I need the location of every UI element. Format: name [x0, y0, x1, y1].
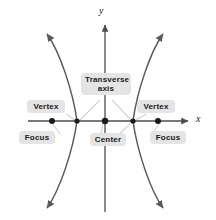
point-vertex-left [74, 118, 79, 123]
hyperbola-figure: y x Vertex Vertex Focus Focus Center Tra… [0, 0, 216, 220]
point-focus-left [49, 118, 55, 124]
leader-vertex-right [136, 114, 146, 120]
point-center [102, 118, 108, 124]
leader-vertex-left [66, 114, 75, 120]
leader-transverse-right [112, 100, 131, 120]
point-focus-right [155, 118, 161, 124]
label-center: Center [90, 133, 126, 146]
label-focus-right: Focus [150, 131, 186, 144]
leader-transverse-left [80, 100, 100, 120]
y-axis-label: y [99, 5, 103, 16]
x-axis-label: x [196, 113, 200, 124]
point-vertex-right [130, 118, 135, 123]
label-focus-left: Focus [19, 131, 55, 144]
label-vertex-left: Vertex [27, 100, 65, 113]
label-transverse-axis: Transverse axis [81, 73, 131, 95]
label-vertex-right: Vertex [137, 100, 175, 113]
